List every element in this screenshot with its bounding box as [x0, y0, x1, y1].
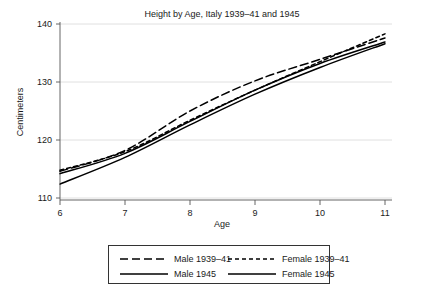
legend-label-1[interactable]: Female 1939–41: [282, 254, 350, 264]
height-by-age-line-chart: Height by Age, Italy 1939–41 and 1945 11…: [0, 0, 435, 297]
x-tick-label: 11: [380, 208, 389, 218]
chart-title: Height by Age, Italy 1939–41 and 1945: [144, 9, 299, 19]
chart-figure: Height by Age, Italy 1939–41 and 1945 11…: [0, 0, 435, 297]
x-tick-label: 8: [187, 208, 192, 218]
x-tick-label: 10: [315, 208, 325, 218]
legend-label-2[interactable]: Male 1945: [174, 269, 216, 279]
y-axis-title: Centimeters: [15, 87, 25, 136]
x-tick-label: 7: [122, 208, 127, 218]
x-tick-label: 6: [57, 208, 62, 218]
x-tick-label: 9: [252, 208, 257, 218]
y-tick-label: 120: [37, 135, 52, 145]
legend-label-0[interactable]: Male 1939–41: [174, 254, 231, 264]
y-tick-label: 130: [37, 77, 52, 87]
legend-label-3[interactable]: Female 1945: [282, 269, 335, 279]
x-axis-title: Age: [214, 219, 230, 229]
y-tick-label: 140: [37, 19, 52, 29]
y-tick-label: 110: [38, 193, 52, 203]
